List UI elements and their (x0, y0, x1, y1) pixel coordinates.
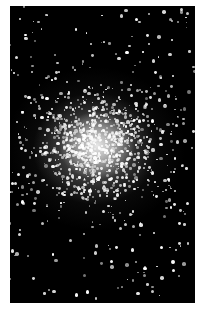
star (51, 165, 54, 168)
star (20, 147, 23, 150)
star (71, 180, 73, 182)
star (153, 232, 155, 234)
star (162, 191, 164, 193)
star (75, 116, 77, 118)
star (81, 146, 83, 148)
star (123, 109, 125, 111)
star (137, 170, 140, 173)
star (82, 63, 83, 64)
star (134, 137, 136, 139)
star (71, 121, 72, 122)
star (115, 180, 117, 182)
star (131, 118, 132, 119)
star (148, 43, 150, 45)
star (116, 193, 119, 196)
star (112, 88, 113, 89)
star (152, 59, 155, 62)
star (89, 193, 92, 196)
star (143, 150, 145, 152)
star (101, 145, 103, 147)
star (149, 152, 150, 153)
star (125, 165, 127, 167)
star (115, 53, 117, 55)
star (74, 164, 76, 166)
star (106, 192, 108, 194)
star (147, 146, 150, 149)
star (47, 116, 49, 118)
star (110, 265, 113, 268)
star (83, 101, 87, 105)
star (87, 142, 90, 145)
star (127, 131, 128, 132)
star (44, 164, 48, 168)
star (102, 96, 103, 97)
star (110, 187, 112, 189)
star (156, 127, 159, 130)
star (94, 165, 96, 167)
star (124, 9, 127, 12)
star (51, 108, 52, 109)
star (88, 110, 91, 113)
star (159, 75, 163, 79)
star (173, 171, 175, 173)
star (185, 17, 187, 19)
star (170, 206, 172, 208)
star (40, 94, 43, 97)
star (110, 125, 113, 128)
star (149, 96, 152, 99)
star (58, 171, 59, 172)
star (187, 90, 191, 94)
star (46, 184, 48, 186)
star (55, 159, 56, 160)
star (83, 89, 86, 92)
star (24, 126, 26, 128)
star (92, 196, 94, 198)
star (69, 161, 71, 163)
star (143, 267, 146, 270)
star (36, 190, 40, 194)
star (159, 137, 162, 140)
star (170, 140, 173, 143)
star (89, 88, 90, 89)
star (125, 110, 126, 111)
star (77, 80, 80, 83)
star (120, 140, 123, 143)
star (116, 159, 119, 162)
star (86, 135, 89, 138)
star (192, 130, 195, 133)
star (167, 94, 170, 97)
star (42, 142, 44, 144)
star (60, 205, 62, 207)
star (106, 108, 108, 110)
star (95, 244, 98, 247)
star (183, 107, 187, 111)
star (163, 104, 167, 108)
star (153, 92, 156, 95)
star (165, 207, 168, 210)
star (103, 91, 104, 92)
star (86, 130, 89, 133)
star (75, 164, 79, 168)
star (85, 152, 86, 153)
star (68, 183, 70, 185)
star (32, 181, 35, 184)
star (129, 105, 130, 106)
star (140, 128, 143, 131)
star (138, 157, 140, 159)
star (113, 182, 115, 184)
star (126, 142, 128, 144)
star (78, 176, 80, 178)
star (86, 290, 89, 293)
star (120, 14, 124, 18)
star (56, 142, 59, 145)
star (75, 142, 77, 144)
star (170, 85, 173, 88)
star (21, 194, 23, 196)
star (101, 42, 102, 43)
star (87, 182, 89, 184)
star (78, 189, 79, 190)
star (106, 174, 109, 177)
star (37, 21, 39, 23)
star (24, 37, 27, 40)
star (83, 191, 84, 192)
